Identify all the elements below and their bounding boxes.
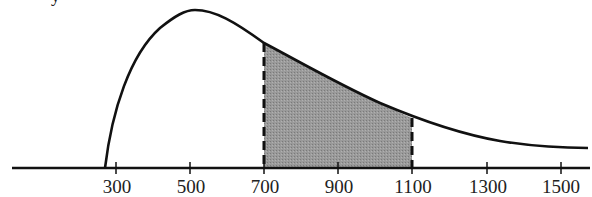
partial-top-label: y <box>51 0 60 6</box>
tick-label-700: 700 <box>251 176 280 197</box>
tick-label-1500: 1500 <box>542 176 580 197</box>
tick-label-1300: 1300 <box>469 176 507 197</box>
tick-label-300: 300 <box>103 176 132 197</box>
shaded-region-700-1100 <box>264 43 412 168</box>
tick-label-900: 900 <box>325 176 354 197</box>
tick-label-500: 500 <box>177 176 206 197</box>
x-tick-labels: 300 500 700 900 1100 1300 1500 <box>103 176 580 197</box>
tick-label-1100: 1100 <box>394 176 431 197</box>
density-chart: y 300 500 700 900 1100 1300 1500 <box>0 0 592 197</box>
